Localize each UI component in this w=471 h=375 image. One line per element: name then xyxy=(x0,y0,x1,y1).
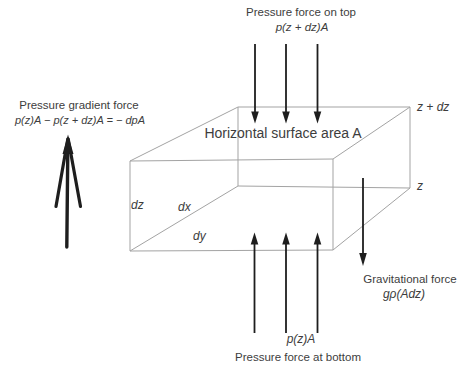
dx-label: dx xyxy=(178,201,191,214)
up-arrow xyxy=(251,233,259,334)
pressure-gradient-label: Pressure gradient force xyxy=(19,99,139,112)
bottom-pressure-label: Pressure force at bottom xyxy=(235,351,361,364)
pressure-gradient-arrow xyxy=(56,135,81,248)
gravity-arrow xyxy=(359,178,367,266)
bottom-pressure-formula: p(z)A xyxy=(287,333,316,346)
gravitational-force-label: Gravitational force xyxy=(363,273,456,286)
diagram-canvas: Pressure force on top p(z + dz)A Pressur… xyxy=(0,0,471,375)
z-label: z xyxy=(417,180,423,193)
box-edge-top-front xyxy=(130,159,333,161)
box-edge-bottom-back xyxy=(238,186,410,188)
diagram-graphics xyxy=(0,0,471,375)
dz-label: dz xyxy=(131,199,144,212)
up-arrow xyxy=(314,233,322,334)
box-edge-bottom-right xyxy=(333,188,410,250)
pressure-gradient-formula: p(z)A − p(z + dz)A = − dpA xyxy=(15,114,145,126)
horizontal-surface-label: Horizontal surface area A xyxy=(204,126,361,141)
down-arrow xyxy=(314,44,322,124)
top-pressure-arrows xyxy=(251,44,321,124)
z-plus-dz-label: z + dz xyxy=(417,101,449,114)
down-arrow xyxy=(251,44,259,124)
gravitational-force-formula: gρ(Adz) xyxy=(383,288,425,301)
box-edge-bottom-front xyxy=(130,250,333,251)
bottom-pressure-arrows xyxy=(251,233,322,334)
top-pressure-formula: p(z + dz)A xyxy=(276,21,329,34)
up-arrow xyxy=(282,233,290,334)
box-edge-bottom-left xyxy=(130,186,238,251)
dy-label: dy xyxy=(193,230,206,243)
top-pressure-label: Pressure force on top xyxy=(246,6,356,19)
down-arrow xyxy=(282,44,290,124)
